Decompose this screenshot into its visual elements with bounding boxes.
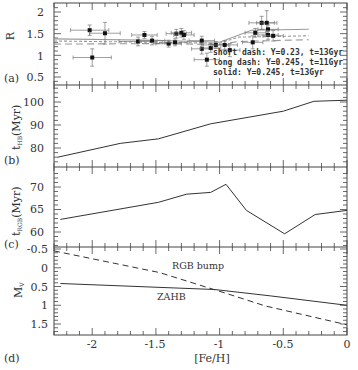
xtick-2: -1 [214,338,225,351]
ylabel-d-sub: V [18,282,25,288]
svg-text:MV: MV [12,282,25,298]
data-point [266,33,270,37]
ytick-a-3: 0.5 [27,71,45,84]
data-point [182,33,186,37]
t-rgb-curve [60,184,347,234]
svg-text:tHB(Myr): tHB(Myr) [10,105,23,150]
data-point [150,39,154,43]
data-point [271,34,275,38]
ytick-c-1: 65 [30,203,44,216]
data-point [173,40,177,44]
ytick-d-0: -0.5 [27,243,48,256]
ytick-c-2: 60 [30,226,44,239]
ylabel-b-unit: (Myr) [10,105,23,136]
ytick-b-2: 80 [30,142,44,155]
xtick-4: 0 [344,338,351,351]
legend-solid: solid: Y=0.245, t=13Gyr [213,67,324,77]
data-point [253,31,257,35]
svg-text:tRGB(Myr): tRGB(Myr) [10,187,23,236]
xtick-3: -0.5 [272,338,293,351]
data-point [103,31,107,35]
figure: 2 1.5 1 0.5 R (a) short dash: Y=0.23, t=… [0,0,358,370]
ylabel-c-unit: (Myr) [10,187,23,218]
ytick-b-1: 90 [30,119,44,132]
ytick-d-1: 0 [41,262,48,275]
ylabel-d: MV [12,282,25,298]
ylabel-b: tHB(Myr) [10,105,23,150]
ylabel-c: tRGB(Myr) [10,187,23,236]
ylabel-d-main: M [12,287,25,298]
xtick-1: -1.5 [144,338,165,351]
chart-svg: 2 1.5 1 0.5 R (a) short dash: Y=0.23, t=… [0,0,358,370]
data-point [90,56,94,60]
ytick-a-0: 2 [37,6,44,19]
xtick-0: -2 [87,338,98,351]
label-rgb-bump: RGB bump [172,260,224,271]
panel-tag-b: (b) [4,154,20,167]
ytick-d-4: 1.5 [31,318,49,331]
data-point [251,40,255,44]
ytick-a-1: 1.5 [27,28,45,41]
ytick-d-2: 0.5 [31,281,49,294]
panel-tag-c: (c) [4,238,19,251]
xlabel: [Fe/H] [194,352,229,365]
data-point [142,33,146,37]
legend-short-dash: short dash: Y=0.23, t=13Gyr [213,48,343,57]
ytick-b-0: 100 [23,96,44,109]
data-point [200,39,204,43]
ytick-a-2: 1 [37,50,44,63]
legend-long-dash: long dash: Y=0.245, t=11Gyr [213,58,343,67]
panel-tag-a: (a) [4,72,19,85]
panel-tag-d: (d) [4,352,20,365]
label-zahb: ZAHB [157,291,186,302]
data-point [223,43,227,47]
ytick-d-3: 1 [41,299,48,312]
ylabel-c-sub: RGB [16,217,23,231]
t-hb-curve [58,100,347,157]
data-point [205,58,209,62]
data-point [265,21,269,25]
ytick-c-0: 70 [30,181,44,194]
ylabel-a: R [4,31,17,40]
